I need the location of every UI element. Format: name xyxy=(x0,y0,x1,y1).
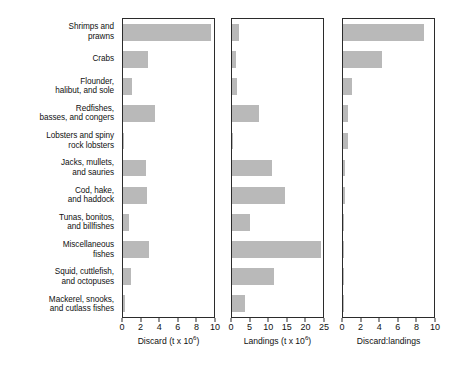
category-label-line: Tunas, bonitos, xyxy=(59,213,114,223)
category-label: Redfishes,basses, and congers xyxy=(0,100,118,127)
category-label-line: and haddock xyxy=(68,195,114,205)
figure-root: Shrimps andprawnsCrabsFlounder,halibut, … xyxy=(0,0,455,379)
category-label-line: Mackerel, snooks, xyxy=(49,295,114,305)
bar xyxy=(123,187,147,204)
x-axis-title-base: Discard:landings xyxy=(357,336,421,346)
bar-row xyxy=(123,46,214,73)
bar-row xyxy=(123,290,214,317)
bar-row xyxy=(343,209,434,236)
bar xyxy=(232,214,250,231)
bar xyxy=(232,241,321,258)
bar-row xyxy=(123,127,214,154)
category-label-line: Lobsters and spiny xyxy=(46,131,114,141)
x-axis-title-tail: ) xyxy=(196,336,199,346)
bar xyxy=(123,214,129,231)
bar xyxy=(343,241,344,258)
bar xyxy=(123,160,146,177)
category-label: Mackerel, snooks,and cutlass fishes xyxy=(0,291,118,318)
category-label-column: Shrimps andprawnsCrabsFlounder,halibut, … xyxy=(0,18,118,318)
x-tick-label: 15 xyxy=(282,322,292,333)
bar-row xyxy=(123,182,214,209)
bar-row xyxy=(123,100,214,127)
bar-row xyxy=(123,154,214,181)
x-tick-label: 0 xyxy=(339,322,344,333)
category-label: Flounder,halibut, and sole xyxy=(0,73,118,100)
x-tick-label: 10 xyxy=(210,322,220,333)
bar xyxy=(232,51,236,68)
plot-area-discard xyxy=(122,18,215,318)
bar-row xyxy=(123,73,214,100)
bar xyxy=(232,160,272,177)
bar-row xyxy=(232,100,323,127)
category-label-line: Crabs xyxy=(92,54,114,64)
category-label: Lobsters and spinyrock lobsters xyxy=(0,127,118,154)
bar xyxy=(123,268,131,285)
bar-row xyxy=(232,154,323,181)
plot-area-ratio xyxy=(342,18,435,318)
bar-row xyxy=(343,263,434,290)
bar-row xyxy=(232,73,323,100)
x-axis-title: Discard:landings xyxy=(342,336,435,347)
bar-row xyxy=(232,182,323,209)
bar xyxy=(343,24,424,41)
category-label-line: and billfishes xyxy=(67,222,114,232)
bar xyxy=(343,133,348,150)
bar-row xyxy=(343,100,434,127)
bar-row xyxy=(343,182,434,209)
x-tick-label: 6 xyxy=(395,322,400,333)
panel-landings: 0510152025Landings (t x 106) xyxy=(231,18,324,318)
bar-row xyxy=(343,73,434,100)
bar xyxy=(123,241,149,258)
panel-ratio: 0246810Discard:landings xyxy=(342,18,435,318)
category-label: Tunas, bonitos,and billfishes xyxy=(0,209,118,236)
category-label: Crabs xyxy=(0,45,118,72)
bar xyxy=(343,268,344,285)
category-label-line: Jacks, mullets, xyxy=(61,158,114,168)
bar xyxy=(343,78,352,95)
category-label-line: Squid, cuttlefish, xyxy=(55,267,114,277)
bar xyxy=(232,133,233,150)
bar-row xyxy=(232,263,323,290)
bar-row xyxy=(232,127,323,154)
x-tick-label: 4 xyxy=(157,322,162,333)
x-tick-label: 6 xyxy=(175,322,180,333)
bar xyxy=(232,78,237,95)
x-tick-label: 2 xyxy=(138,322,143,333)
bar-row xyxy=(343,127,434,154)
x-tick-label: 10 xyxy=(430,322,440,333)
category-label-line: and sauries xyxy=(72,168,114,178)
x-axis-ratio: 0246810Discard:landings xyxy=(342,318,435,348)
bar xyxy=(123,295,125,312)
category-label-line: fishes xyxy=(93,250,114,260)
x-tick-label: 4 xyxy=(377,322,382,333)
category-label: Shrimps andprawns xyxy=(0,18,118,45)
category-label-line: basses, and congers xyxy=(39,113,114,123)
bar xyxy=(232,268,274,285)
category-label: Squid, cuttlefish,and octopuses xyxy=(0,263,118,290)
category-label-line: Miscellaneous xyxy=(63,240,114,250)
category-label: Cod, hake,and haddock xyxy=(0,182,118,209)
category-label-line: and cutlass fishes xyxy=(50,304,114,314)
category-label-line: Cod, hake, xyxy=(75,186,114,196)
bar-row xyxy=(343,19,434,46)
bar xyxy=(343,295,344,312)
bar xyxy=(123,133,124,150)
x-tick-label: 5 xyxy=(247,322,252,333)
category-label-line: Flounder, xyxy=(80,77,114,87)
x-axis-title-base: Landings (t x 10 xyxy=(244,336,305,346)
bar-row xyxy=(343,154,434,181)
bar-row xyxy=(343,236,434,263)
bar-row xyxy=(123,19,214,46)
x-tick-label: 20 xyxy=(300,322,310,333)
bar xyxy=(123,24,211,41)
bar xyxy=(232,295,245,312)
x-tick-label: 8 xyxy=(194,322,199,333)
x-tick-label: 0 xyxy=(228,322,233,333)
x-axis-title-tail: ) xyxy=(308,336,311,346)
category-label-line: rock lobsters xyxy=(68,141,114,151)
x-axis-title: Discard (t x 106) xyxy=(122,336,215,347)
x-tick-label: 10 xyxy=(263,322,273,333)
x-axis-title-base: Discard (t x 10 xyxy=(138,336,193,346)
x-tick-label: 25 xyxy=(319,322,329,333)
category-label-line: and octopuses xyxy=(61,277,114,287)
